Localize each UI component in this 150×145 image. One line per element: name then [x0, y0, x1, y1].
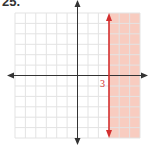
y-axis-up-arrow-icon: [75, 0, 81, 7]
x-axis-right-arrow-icon: [141, 73, 148, 79]
y-axis: [75, 0, 81, 145]
boundary-value-label: 3: [100, 78, 105, 89]
y-axis-down-arrow-icon: [75, 138, 81, 145]
x-axis-left-arrow-icon: [7, 73, 14, 79]
coordinate-plane: 3: [0, 0, 150, 145]
